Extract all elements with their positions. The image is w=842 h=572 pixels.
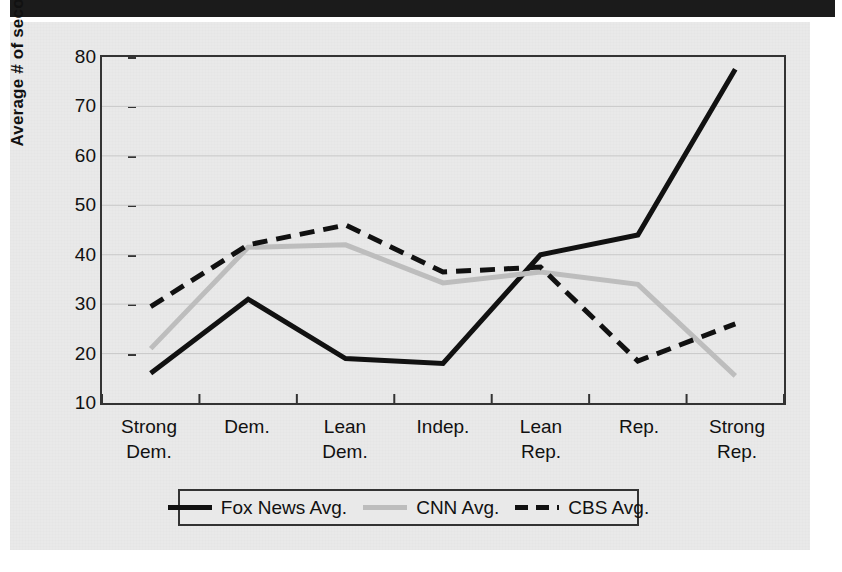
x-tick-label-line1: Strong	[100, 414, 198, 439]
series-line-fox-news-avg	[151, 69, 736, 373]
legend-label: CNN Avg.	[416, 497, 499, 519]
y-axis-ticks: 1020304050607080	[42, 55, 96, 405]
y-tick-label: 10	[52, 392, 96, 414]
x-tick-label-line1: Strong	[688, 414, 786, 439]
legend-label: CBS Avg.	[568, 497, 649, 519]
x-tick-label-line2: Rep.	[688, 439, 786, 464]
x-tick-label: StrongDem.	[100, 414, 198, 472]
legend-item: CBS Avg.	[515, 497, 649, 519]
page-root: Average # of seconds 1020304050607080 St…	[0, 0, 842, 572]
y-tick-label: 20	[52, 343, 96, 365]
scan-artifact-bar	[10, 0, 835, 17]
legend-item: CNN Avg.	[363, 497, 499, 519]
x-tick-label: LeanRep.	[492, 414, 590, 472]
y-tick-label: 40	[52, 244, 96, 266]
series-canvas	[102, 57, 784, 403]
y-axis-title: Average # of seconds	[8, 0, 28, 172]
x-tick-label: Dem.	[198, 414, 296, 472]
plot-area	[100, 55, 786, 405]
x-tick-label-line2: Dem.	[100, 439, 198, 464]
y-tick-label: 30	[52, 293, 96, 315]
x-axis-labels: StrongDem.Dem.LeanDem.Indep.LeanRep.Rep.…	[100, 414, 786, 472]
y-tick-label: 50	[52, 194, 96, 216]
y-tick-label: 80	[52, 46, 96, 68]
x-tick-label-line2: Rep.	[492, 439, 590, 464]
x-tick-label-line1: Lean	[296, 414, 394, 439]
x-tick-label-line1: Indep.	[394, 414, 492, 439]
legend-swatch-icon	[515, 505, 559, 510]
legend-item: Fox News Avg.	[168, 497, 347, 519]
y-tick-label: 70	[52, 95, 96, 117]
y-tick-label: 60	[52, 145, 96, 167]
x-tick-label-line1: Dem.	[198, 414, 296, 439]
chart-figure: Average # of seconds 1020304050607080 St…	[10, 22, 810, 550]
x-tick-label-line1: Lean	[492, 414, 590, 439]
x-tick-label: Rep.	[590, 414, 688, 472]
legend-swatch-icon	[363, 505, 407, 510]
legend-label: Fox News Avg.	[221, 497, 347, 519]
x-tick-label: StrongRep.	[688, 414, 786, 472]
x-tick-label-line2: Dem.	[296, 439, 394, 464]
x-tick-label: Indep.	[394, 414, 492, 472]
x-tick-label-line1: Rep.	[590, 414, 688, 439]
x-tick-label: LeanDem.	[296, 414, 394, 472]
chart-legend: Fox News Avg.CNN Avg.CBS Avg.	[178, 489, 639, 526]
legend-swatch-icon	[168, 505, 212, 510]
